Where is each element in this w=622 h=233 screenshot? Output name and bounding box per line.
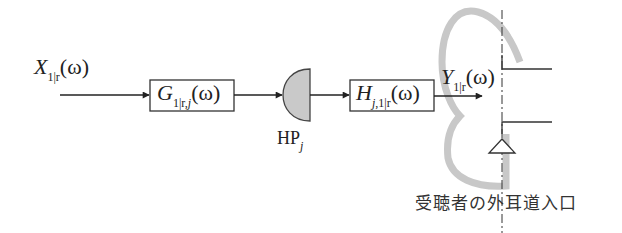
output-subscript: 1|r <box>453 80 465 94</box>
g-subscript-var: j <box>188 96 191 110</box>
h-argument: (ω) <box>391 80 420 105</box>
input-argument: (ω) <box>60 54 89 79</box>
g-symbol: G <box>157 80 173 105</box>
input-symbol: X <box>34 54 47 79</box>
headphone-icon <box>283 69 310 121</box>
output-signal-label: Y1|r(ω) <box>441 64 495 90</box>
h-symbol: H <box>356 80 372 105</box>
output-symbol: Y <box>441 64 453 89</box>
input-signal-label: X1|r(ω) <box>34 54 89 80</box>
ear-canal-lower-wall <box>502 122 552 134</box>
hp-subscript: j <box>300 139 303 153</box>
h-subscript: j,1|r <box>372 96 391 110</box>
output-argument: (ω) <box>466 64 495 89</box>
filter-g-label: G1|r,j(ω) <box>157 80 220 106</box>
g-subscript: 1|r,j <box>173 96 191 110</box>
entrance-pointer-icon <box>489 139 515 153</box>
g-argument: (ω) <box>191 80 220 105</box>
h-subscript-main: ,1|r <box>375 96 390 110</box>
hp-symbol: HP <box>277 128 300 148</box>
ear-outline <box>442 11 520 186</box>
g-subscript-main: 1|r, <box>173 96 188 110</box>
ear-canal-entrance-label: 受聴者の外耳道入口 <box>415 189 577 214</box>
filter-h-label: Hj,1|r(ω) <box>356 80 420 106</box>
headphone-label: HPj <box>277 128 303 149</box>
input-subscript: 1|r <box>47 70 59 84</box>
ear-canal-upper-wall <box>502 55 552 69</box>
